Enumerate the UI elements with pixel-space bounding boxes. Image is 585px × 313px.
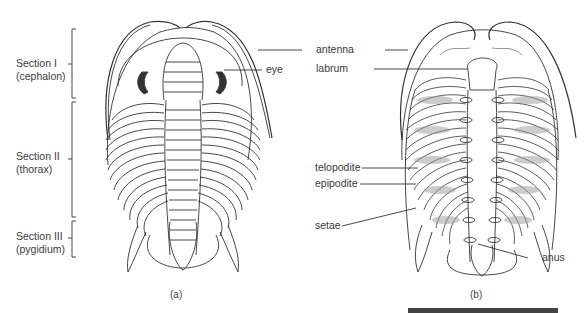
section-3-subtitle: (pygidium) xyxy=(16,243,65,256)
labrum-label: labrum xyxy=(316,62,348,75)
epipodite-label: epipodite xyxy=(315,177,358,190)
panel-b-caption: (b) xyxy=(470,289,482,300)
trilobite-ventral xyxy=(342,22,576,276)
trilobite-diagram xyxy=(0,0,585,313)
section-2-subtitle: (thorax) xyxy=(16,163,60,176)
page-edge-bar xyxy=(408,308,558,313)
setae-label: setae xyxy=(315,219,341,232)
section-2-title: Section II xyxy=(16,150,60,163)
section-brackets xyxy=(68,29,76,257)
section-3-label: Section III (pygidium) xyxy=(16,230,65,256)
trilobite-dorsal xyxy=(106,21,302,272)
section-1-label: Section I (cephalon) xyxy=(16,57,66,83)
antenna-label: antenna xyxy=(316,43,354,56)
section-1-title: Section I xyxy=(16,57,66,70)
anus-label: anus xyxy=(542,251,565,264)
panel-a-caption: (a) xyxy=(170,289,182,300)
section-3-title: Section III xyxy=(16,230,65,243)
telopodite-label: telopodite xyxy=(315,161,361,174)
section-2-label: Section II (thorax) xyxy=(16,150,60,176)
eye-label: eye xyxy=(266,63,283,76)
section-1-subtitle: (cephalon) xyxy=(16,70,66,83)
